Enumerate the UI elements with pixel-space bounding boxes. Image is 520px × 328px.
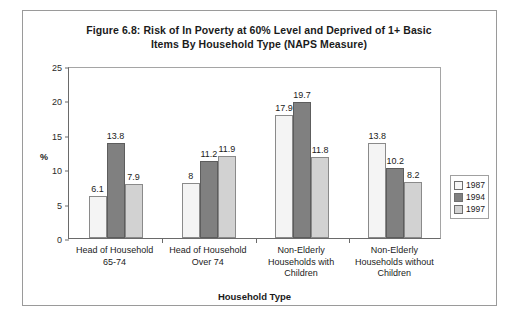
bar-value-label: 19.7 [293,90,311,100]
x-axis-category-label-line: Non-Elderly [255,245,348,257]
x-axis-category-label: Head of HouseholdOver 74 [161,245,254,268]
x-axis-tick-mark [256,238,257,243]
bar-rect[interactable] [182,183,200,238]
legend-swatch-icon [454,193,463,202]
y-axis-tick-label: 0 [57,235,62,245]
x-axis-category-label: Non-ElderlyHouseholds withoutChildren [348,245,441,280]
bar-value-label: 17.9 [275,103,293,113]
bar-1997-2[interactable]: 11.9 [218,68,236,238]
y-axis-tick-label: 15 [52,132,62,142]
bar-group: 6.113.87.9 [69,68,162,238]
x-axis-category-label-line: Children [255,268,348,280]
x-axis-category-label: Non-ElderlyHouseholds withChildren [255,245,348,280]
bar-value-label: 10.2 [387,156,405,166]
bar-value-label: 11.2 [200,149,217,159]
x-axis-category-label: Head of Household65-74 [68,245,161,268]
x-axis-category-label-line: Head of Household [161,245,254,257]
bar-1994-2[interactable]: 11.2 [200,68,218,238]
bar-value-label: 8.2 [407,170,420,180]
legend-item-1994[interactable]: 1994 [454,191,485,203]
x-axis-category-label-line: Head of Household [68,245,161,257]
plot-area: 05101520256.113.87.9811.211.917.919.711.… [68,67,441,239]
legend-item-1997[interactable]: 1997 [454,203,485,215]
bar-rect[interactable] [293,102,311,238]
bar-group: 17.919.711.8 [256,68,349,238]
bar-1997-3[interactable]: 11.8 [311,68,329,238]
bar-value-label: 13.8 [107,131,125,141]
legend-swatch-icon [454,205,463,214]
bar-1994-3[interactable]: 19.7 [293,68,311,238]
bar-group-bars: 6.113.87.9 [69,68,162,238]
y-axis-tick-mark [65,240,69,241]
x-axis-category-label-line: 65-74 [68,257,161,269]
bar-1997-1[interactable]: 7.9 [125,68,143,238]
y-axis-tick-label: 10 [52,166,62,176]
legend-label: 1994 [466,192,485,202]
bar-1987-4[interactable]: 13.8 [368,68,386,238]
bar-value-label: 13.8 [369,131,387,141]
bar-rect[interactable] [200,161,218,238]
bar-rect[interactable] [107,143,125,238]
y-axis-title: % [40,152,48,162]
bar-rect[interactable] [275,115,293,238]
x-axis-category-label-line: Households with [255,257,348,269]
x-axis-category-label-line: Non-Elderly [348,245,441,257]
bar-group: 13.810.28.2 [349,68,442,238]
legend-item-1987[interactable]: 1987 [454,179,485,191]
y-axis-tick-label: 5 [57,201,62,211]
bar-value-label: 11.8 [312,145,329,155]
y-axis-tick-label: 25 [52,63,62,73]
bar-rect[interactable] [386,168,404,238]
y-axis-tick-label: 20 [52,97,62,107]
legend-label: 1987 [466,180,485,190]
bar-value-label: 7.9 [127,172,140,182]
bar-rect[interactable] [368,143,386,238]
bar-1994-1[interactable]: 13.8 [107,68,125,238]
chart-title: Figure 6.8: Risk of In Poverty at 60% Le… [49,23,469,51]
bar-group-bars: 811.211.9 [162,68,255,238]
x-axis-category-label-line: Over 74 [161,257,254,269]
bar-rect[interactable] [89,196,107,238]
bar-group: 811.211.9 [162,68,255,238]
bar-rect[interactable] [404,182,422,238]
bar-value-label: 6.1 [91,184,104,194]
bar-value-label: 8 [188,171,193,181]
x-axis-tick-mark [162,238,163,243]
legend-label: 1997 [466,204,485,214]
legend-swatch-icon [454,181,463,190]
chart-title-line-2: Items By Household Type (NAPS Measure) [49,37,469,51]
chart-legend: 198719941997 [450,175,489,219]
x-axis-category-label-line: Children [348,268,441,280]
bar-1987-2[interactable]: 8 [182,68,200,238]
x-axis-title: Household Type [68,291,441,302]
bar-1987-3[interactable]: 17.9 [275,68,293,238]
figure-frame: Figure 6.8: Risk of In Poverty at 60% Le… [22,10,497,306]
bar-1994-4[interactable]: 10.2 [386,68,404,238]
bar-rect[interactable] [125,184,143,238]
bar-rect[interactable] [311,157,329,238]
x-axis-tick-mark [349,238,350,243]
x-axis-category-label-line: Households without [348,257,441,269]
chart-title-line-1: Figure 6.8: Risk of In Poverty at 60% Le… [49,23,469,37]
bar-1997-4[interactable]: 8.2 [404,68,422,238]
bar-1987-1[interactable]: 6.1 [89,68,107,238]
bar-value-label: 11.9 [218,144,235,154]
bar-group-bars: 17.919.711.8 [256,68,349,238]
bar-group-bars: 13.810.28.2 [349,68,442,238]
bar-rect[interactable] [218,156,236,238]
